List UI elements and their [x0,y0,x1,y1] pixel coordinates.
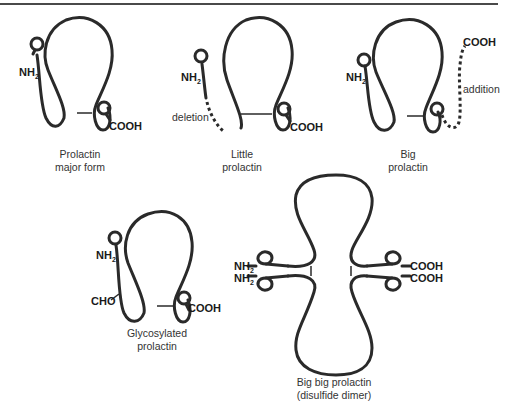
little-caption-2: prolactin [222,161,262,173]
major-caption-1: Prolactin [60,148,101,160]
prolactin-variants-diagram: NH2 COOH Prolactin major form NH2 deleti… [0,0,518,414]
dimer-caption-1: Big big prolactin [297,376,372,388]
glyco-n-loop [109,232,121,244]
panel-little: NH2 deletion COOH Little prolactin [172,18,323,173]
glyco-c-terminus: COOH [188,302,221,314]
dimer-lower-lobe [288,276,372,375]
dimer-c-terminus-2: COOH [410,272,443,284]
dimer-right-upper-loop [386,252,400,264]
dimer-c-terminus-1: COOH [410,260,443,272]
big-n-terminus: NH2 [346,71,366,85]
glyco-chain [116,212,192,322]
glyco-caption-1: Glycosylated [127,327,187,339]
dimer-upper-lobe [288,175,372,266]
little-c-terminus: COOH [290,121,323,133]
big-chain [365,20,442,132]
major-caption-2: major form [55,161,105,173]
little-n-terminus: NH2 [181,71,201,85]
little-chain-stub [202,64,206,98]
big-caption-2: prolactin [388,161,428,173]
dimer-left-upper-loop [258,252,272,264]
panel-major-form: NH2 COOH Prolactin major form [19,18,142,173]
glyco-n-terminus: NH2 [96,249,116,263]
glyco-cho-label: CHO [91,295,116,307]
little-caption-1: Little [231,148,253,160]
dimer-right-lower-loop [386,278,400,290]
major-n-terminus: NH2 [19,66,39,80]
major-c-terminus: COOH [109,120,142,132]
big-addition-segment [442,46,465,128]
panel-glycosylated: NH2 CHO COOH Glycosylated prolactin [91,212,221,352]
little-n-loop [195,50,207,62]
panel-big: NH2 COOH addition Big prolactin [346,20,500,173]
major-n-loop [31,38,43,50]
glyco-caption-2: prolactin [137,340,177,352]
big-caption-1: Big [400,148,415,160]
panel-bigbig: NH2 NH2 COOH COOH Big big prolactin (dis… [234,175,443,401]
big-addition-label: addition [463,83,500,95]
little-deletion-segment [207,102,225,132]
big-n-loop [358,54,370,66]
big-c-terminus: COOH [463,36,496,48]
dimer-n-terminus-2: NH2 [234,272,254,286]
dimer-caption-2: (disulfide dimer) [297,389,372,401]
little-deletion-label: deletion [172,111,209,123]
dimer-left-lower-loop [258,278,272,290]
